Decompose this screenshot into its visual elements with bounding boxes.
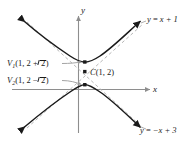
leader-asymptote-upper [141, 21, 146, 23]
vertex-1-radicand: 2 [41, 58, 46, 68]
vertex-1-radical: 2 [38, 59, 46, 68]
hyperbola-figure: y x C(1, 2) V1(1, 2 +2) V2(1, 2 −2) y = … [0, 0, 189, 143]
center-label-paren-close: ) [111, 67, 114, 77]
x-axis-label: x [153, 85, 157, 94]
vertex-2-label: V2(1, 2 −2) [7, 76, 49, 86]
vertex-1-y-lead: 2 + [27, 58, 38, 68]
vertex-2-marker [83, 83, 86, 86]
vertex-1-label: V1(1, 2 +2) [7, 59, 49, 69]
center-marker [83, 70, 86, 73]
vertex-2-radicand: 2 [41, 75, 46, 85]
asymptote-lower-label: y = −x + 3 [140, 126, 177, 135]
lower-branch [25, 85, 141, 127]
asymptote-lower-rhs: −x + 3 [153, 125, 177, 135]
vertex-2-y-lead: 2 − [27, 75, 38, 85]
y-axis-label: y [81, 6, 85, 15]
asymptote-lower-equals: = [144, 125, 153, 135]
asymptote-label-leaders [141, 21, 146, 129]
center-label: C(1, 2) [90, 68, 114, 77]
asymptote-upper-equals: = [151, 14, 160, 24]
vertex-1-marker [83, 60, 86, 63]
asymptote-upper-label: y = x + 1 [147, 15, 178, 24]
asymptote-upper-rhs: x + 1 [160, 14, 178, 24]
vertex-2-radical: 2 [38, 76, 46, 85]
